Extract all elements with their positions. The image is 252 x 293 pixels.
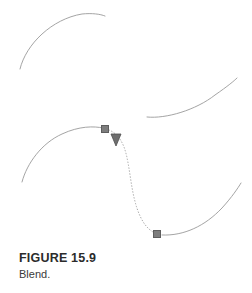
figure-caption-text: Blend. <box>19 267 229 281</box>
arc-bottom-right-path <box>162 183 241 235</box>
cursor-triangle-icon[interactable] <box>111 134 121 146</box>
arc-top-left-path <box>20 14 105 69</box>
blend-illustration <box>0 0 252 248</box>
figure-caption-label: FIGURE 15.9 <box>19 251 229 265</box>
figure-caption: FIGURE 15.9 Blend. <box>19 251 229 281</box>
arc-middle-right-path <box>147 78 237 117</box>
blend-dotted-path <box>106 129 157 234</box>
blend-source-curve-path <box>22 127 103 182</box>
handle-end-square[interactable] <box>154 231 161 238</box>
figure-container: FIGURE 15.9 Blend. <box>0 0 252 293</box>
handle-start-square[interactable] <box>102 126 109 133</box>
